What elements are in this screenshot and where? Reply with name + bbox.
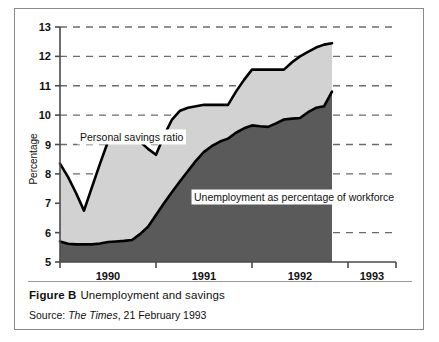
figure-caption: Figure BUnemployment and savings (29, 289, 225, 301)
source-label: Source: (29, 309, 65, 321)
y-axis-ticks: 5678910111213 (39, 21, 60, 268)
chart-plot-region: 5678910111213 1990199119921993 Percentag… (15, 9, 425, 281)
x-tick-label: 1993 (360, 270, 384, 281)
y-tick-label: 6 (45, 227, 51, 239)
figure-title: Unemployment and savings (80, 289, 224, 301)
y-tick-label: 5 (45, 256, 51, 268)
source-publication: The Times (68, 309, 118, 321)
source-date: , 21 February 1993 (118, 309, 207, 321)
savings-label: Personal savings ratio (78, 130, 186, 145)
y-tick-label: 11 (39, 80, 51, 92)
y-tick-label: 13 (39, 21, 51, 33)
y-tick-label: 10 (39, 109, 51, 121)
figure-source: Source:The Times, 21 February 1993 (29, 309, 206, 321)
figure-caption-block: Figure BUnemployment and savings Source:… (15, 281, 425, 330)
caption-divider (28, 281, 412, 282)
y-tick-label: 12 (39, 50, 51, 62)
figure-number: Figure B (29, 289, 76, 301)
y-tick-label: 7 (45, 197, 51, 209)
x-tick-label: 1990 (96, 270, 120, 281)
y-tick-label: 9 (45, 139, 51, 151)
area-chart: 5678910111213 1990199119921993 Percentag… (15, 9, 425, 281)
figure-container: 5678910111213 1990199119921993 Percentag… (14, 8, 424, 330)
y-tick-label: 8 (45, 168, 51, 180)
unemployment-label: Unemployment as percentage of workforce (192, 190, 397, 205)
x-axis-ticks: 1990199119921993 (60, 262, 396, 281)
x-tick-label: 1992 (288, 270, 312, 281)
x-tick-label: 1991 (192, 270, 216, 281)
savings-label-text: Personal savings ratio (80, 131, 183, 143)
unemployment-label-text: Unemployment as percentage of workforce (194, 191, 394, 203)
y-axis-title: Percentage (28, 133, 39, 185)
